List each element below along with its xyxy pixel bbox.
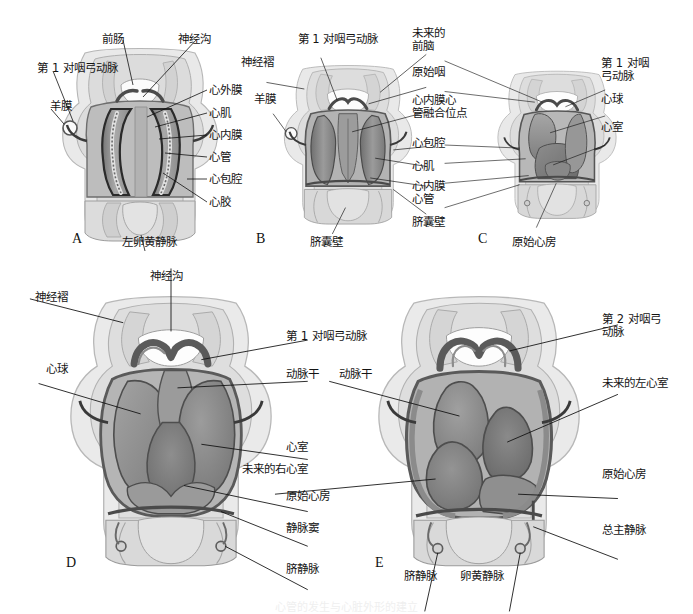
panel-c-label-bulbus-cordis: 心球 [601,93,623,106]
panel-b-label-primitive-pharynx: 原始咽 [412,66,445,79]
panel-b-label-amnion: 羊膜 [238,93,276,106]
panel-d-label-primitive-atrium: 原始心房 [286,490,330,503]
panel-a-label-endocardium: 心内膜 [209,129,242,142]
panel-e-label-second-pharyngeal-arch-artery: 第 2 对咽弓 动脉 [602,313,661,339]
panel-a-label-cardiac-jelly: 心胶 [209,196,231,209]
panel-b-label-myocardium: 心肌 [412,160,434,173]
panel-c-label-primitive-atrium: 原始心房 [500,236,568,249]
panel-b-label-pharyngeal-arch-artery: 第 1 对咽弓动脉 [282,33,394,46]
panel-letter-d: D [66,555,76,571]
panel-a-label-pericardial-cavity: 心包腔 [209,173,242,186]
panel-a-label-myocardium: 心肌 [209,107,231,120]
panel-e-illustration [370,288,588,568]
panel-e-label-future-left-ventricle: 未来的左心室 [602,377,668,390]
panel-d-label-truncus-arteriosus: 动脉干 [286,368,319,381]
panel-d-label-ventricle: 心室 [286,441,308,454]
panel-letter-c: C [478,231,487,247]
panel-a-illustration [55,45,225,245]
panel-d-illustration [62,288,280,568]
panel-c-label-pharyngeal-arch-artery: 第 1 对咽 弓动脉 [601,57,649,83]
panel-d-label-pharyngeal-arch-artery: 第 1 对咽弓动脉 [286,330,367,343]
panel-e-label-common-cardinal-vein: 总主静脉 [602,524,646,537]
panel-letter-e: E [375,555,384,571]
panel-b-label-umbilical-vesicle-wall-bottom: 脐囊壁 [300,236,352,249]
panel-e-label-truncus-arteriosus: 动脉干 [330,368,372,381]
panel-a-label-left-vitelline-vein: 左卵黄静脉 [110,236,188,249]
figure-caption: 心管的发生与心脏外形的建立 [0,598,693,614]
panel-d-label-sinus-venosus: 静脉窦 [286,522,319,535]
panel-a-label-neural-groove: 神经沟 [168,33,220,46]
panel-b-label-endocardial-tube-fusion: 心内膜心 管融合位点 [412,94,467,120]
panel-b-label-neural-fold: 神经褶 [222,56,274,69]
panel-a-label-amnion: 羊膜 [20,100,72,113]
panel-d-label-umbilical-vein: 脐静脉 [286,563,319,576]
panel-a-label-pharyngeal-arch-artery: 第 1 对咽弓动脉 [0,62,118,75]
panel-a-label-heart-tube: 心管 [209,151,231,164]
panel-d-label-neural-groove: 神经沟 [140,270,192,283]
panel-e-label-future-right-ventricle: 未来的右心室 [228,463,308,476]
panel-letter-b: B [256,231,265,247]
panel-letter-a: A [72,231,82,247]
panel-b-label-endocardial-tube: 心内膜 心管 [412,180,445,206]
panel-d-label-bulbus-cordis: 心球 [26,363,68,376]
panel-e-label-umbilical-vein: 脐静脉 [398,570,442,583]
panel-d-label-neural-fold: 神经褶 [16,291,68,304]
panel-a-label-foregut: 前肠 [92,33,134,46]
panel-e-label-vitelline-vein: 卵黄静脉 [453,570,511,583]
panel-b-illustration [278,45,418,245]
panel-b-label-pericardial-cavity: 心包腔 [412,137,445,150]
panel-b-label-future-forebrain: 未来的 前脑 [412,27,445,53]
panel-e-label-primitive-atrium: 原始心房 [602,468,646,481]
panel-b-label-umbilical-vesicle-wall-right: 脐囊壁 [412,216,445,229]
panel-c-label-ventricle: 心室 [601,121,623,134]
